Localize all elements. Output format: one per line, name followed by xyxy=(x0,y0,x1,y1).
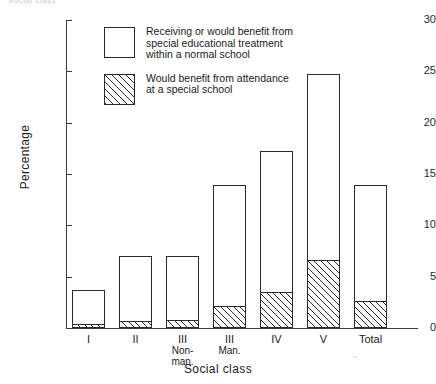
legend: Receiving or would benefit from special … xyxy=(104,26,293,108)
bar xyxy=(119,256,152,328)
bar xyxy=(354,185,387,328)
x-tick-label-line: Total xyxy=(339,333,403,345)
open-square-swatch-icon xyxy=(104,27,135,58)
y-tick-mark xyxy=(66,328,72,329)
bar xyxy=(260,151,293,328)
hatched-square-swatch-icon xyxy=(104,74,135,105)
x-tick-label: Total xyxy=(339,333,403,345)
legend-line: Receiving or would benefit from xyxy=(146,26,293,38)
legend-label-normal-school: Receiving or would benefit from special … xyxy=(146,26,293,61)
bar-hatched-segment xyxy=(308,260,339,327)
bar xyxy=(213,185,246,328)
scan-artifact: ~ xyxy=(352,352,357,362)
legend-line: at a special school xyxy=(146,84,293,96)
legend-item-normal-school: Receiving or would benefit from special … xyxy=(104,26,293,61)
top-caption: Social class xyxy=(8,0,56,5)
bar-hatched-segment xyxy=(73,324,104,327)
y-axis-title: Percentage xyxy=(18,112,32,202)
bar xyxy=(72,290,105,328)
bar-hatched-segment xyxy=(120,321,151,327)
bar-hatched-segment xyxy=(355,301,386,327)
x-tick-label-line: Man. xyxy=(198,345,262,356)
legend-label-special-school: Would benefit from attendance at a speci… xyxy=(146,73,293,96)
x-axis-line xyxy=(66,328,418,329)
bar-hatched-segment xyxy=(214,306,245,327)
bar xyxy=(307,74,340,328)
x-axis-title: Social class xyxy=(0,362,436,376)
bar xyxy=(166,256,199,328)
bar-hatched-segment xyxy=(261,292,292,327)
legend-line: within a normal school xyxy=(146,49,293,61)
bar-hatched-segment xyxy=(167,320,198,327)
bar-chart: Social class Percentage 051015202530 III… xyxy=(0,0,436,384)
legend-item-special-school: Would benefit from attendance at a speci… xyxy=(104,73,293,96)
